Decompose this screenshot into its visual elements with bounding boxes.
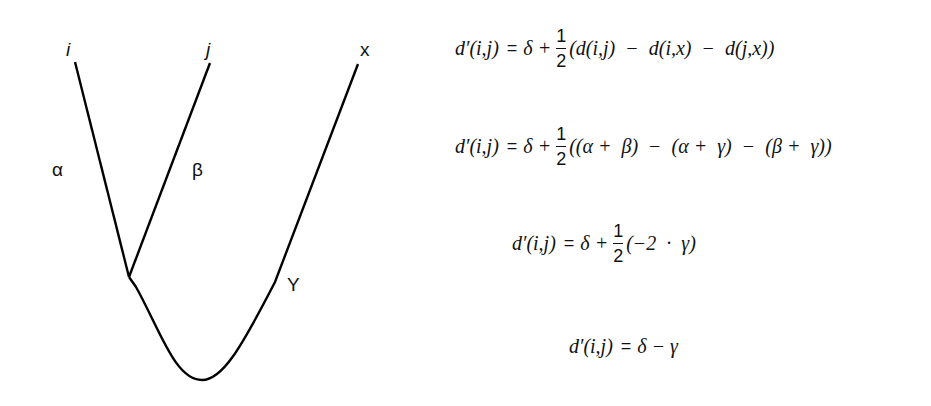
- equation-pre: δ +: [523, 135, 551, 158]
- fraction-numerator: 1: [555, 125, 567, 146]
- fraction-denominator: 2: [556, 49, 566, 70]
- equation-1: d′(i,j) = δ + 1 2 (d(i,j) − d(i,x) − d(j…: [455, 27, 774, 70]
- equation-2: d′(i,j) = δ + 1 2 ((α + β) − (α + γ) − (…: [455, 125, 832, 168]
- equation-op: =: [507, 136, 518, 157]
- fraction-denominator: 2: [556, 147, 566, 168]
- fraction-half: 1 2: [555, 27, 567, 70]
- equation-op: =: [507, 38, 518, 59]
- equation-lhs: d′(i,j): [512, 232, 556, 255]
- equation-op: =: [564, 233, 575, 254]
- equation-rhs: (d(i,j) − d(i,x) − d(j,x)): [569, 37, 774, 60]
- fraction-half: 1 2: [555, 125, 567, 168]
- branch-gamma: [129, 64, 358, 380]
- leaf-label-j: j: [206, 40, 210, 59]
- branch-alpha: [75, 62, 129, 277]
- equation-rhs: (−2 · γ): [626, 232, 696, 255]
- fraction-denominator: 2: [613, 244, 623, 265]
- equation-op: =: [621, 336, 632, 357]
- fraction-numerator: 1: [555, 27, 567, 48]
- equation-lhs: d′(i,j): [455, 135, 499, 158]
- leaf-label-i: i: [66, 40, 70, 59]
- phylogenetic-tree: [0, 0, 400, 406]
- equation-4: d′(i,j) = δ − γ: [569, 335, 678, 358]
- equation-3: d′(i,j) = δ + 1 2 (−2 · γ): [512, 222, 696, 265]
- equation-pre: δ − γ: [637, 335, 678, 358]
- equation-rhs: ((α + β) − (α + γ) − (β + γ)): [569, 135, 831, 158]
- branch-label-beta: β: [192, 160, 203, 179]
- leaf-label-x: x: [360, 40, 370, 59]
- equation-lhs: d′(i,j): [569, 335, 613, 358]
- equation-pre: δ +: [523, 37, 551, 60]
- fraction-numerator: 1: [612, 222, 624, 243]
- equation-lhs: d′(i,j): [455, 37, 499, 60]
- equation-pre: δ +: [580, 232, 608, 255]
- fraction-half: 1 2: [612, 222, 624, 265]
- branch-label-alpha: α: [52, 160, 63, 179]
- branch-label-gamma: Y: [287, 275, 300, 294]
